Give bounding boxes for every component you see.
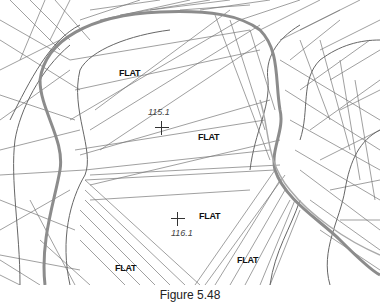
flat-label: FLAT [198, 132, 219, 142]
spot-elevation-cross-icon [171, 212, 185, 226]
spot-elevation-label: 115.1 [148, 107, 170, 117]
figure-caption: Figure 5.48 [0, 288, 380, 302]
triangulation-mesh [0, 0, 380, 285]
spot-elevation-label: 116.1 [171, 228, 193, 238]
spot-elevation-cross-icon [155, 121, 169, 135]
flat-label: FLAT [199, 211, 220, 221]
flat-label: FLAT [115, 263, 136, 273]
flat-label: FLAT [119, 68, 140, 78]
flat-label: FLAT [237, 255, 258, 265]
tin-mesh-figure: FLAT 115.1 FLAT 116.1 FLAT FLAT FLAT [0, 0, 380, 285]
